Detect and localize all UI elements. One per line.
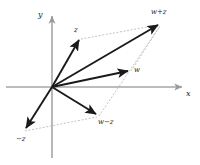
vector-label-minus-z: −z [16, 136, 26, 143]
axis-group [6, 16, 182, 158]
vector-group [26, 25, 158, 128]
vector-label-w: w [134, 67, 140, 74]
vector-diagram-canvas [0, 0, 200, 165]
vector-label-z: z [74, 27, 78, 34]
vector-label-w-minus-z: w−z [98, 119, 114, 126]
vector-minus-z [26, 87, 52, 128]
construction-line-minusz-to-wminusz [25, 117, 97, 131]
vector-label-w-plus-z: w+z [151, 9, 167, 16]
vector-w [52, 71, 128, 87]
vector-w-plus-z [52, 25, 158, 87]
vector-diagram-figure: y x z w w+z w−z −z [0, 0, 200, 165]
vector-w-minus-z [52, 87, 96, 114]
x-axis-label: x [186, 90, 191, 98]
y-axis-label: y [38, 11, 43, 19]
